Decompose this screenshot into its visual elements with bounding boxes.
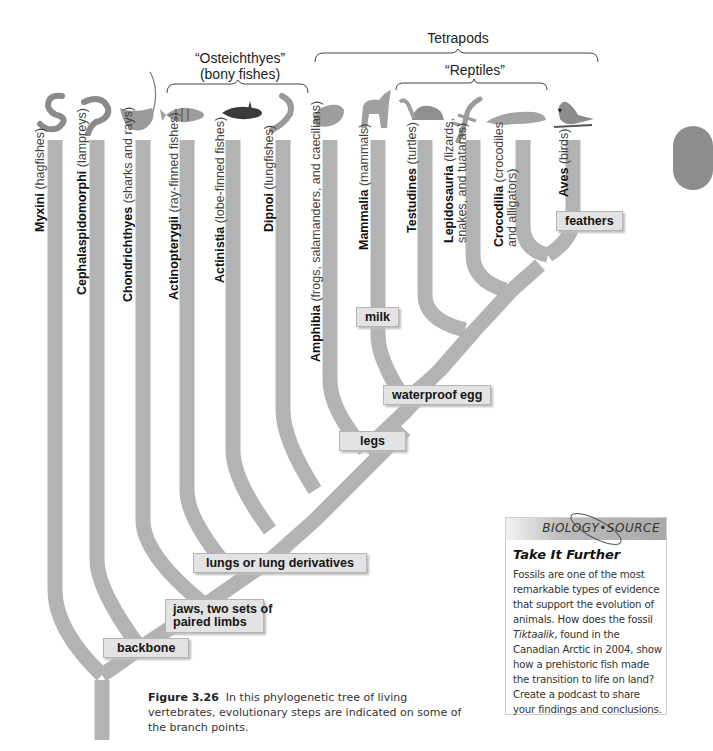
branch-crocodilia [523,140,548,255]
taxon-chondrichthyes: Chondrichthyes (sharks and rays) [121,107,135,302]
group-osteichthyes-sub: (bony fishes) [190,66,290,82]
taxon-myxini: Myxini (hagfishes) [33,128,47,232]
trait-backbone: backbone [103,638,189,658]
group-osteichthyes: “Osteichthyes” (bony fishes) [190,50,290,82]
taxon-cephalaspidomorphi: Cephalaspidomorphi (lampreys) [75,108,89,295]
bracket-tetrapods [315,49,598,62]
biology-source-label: BIOLOGY•SOURCE [542,521,660,535]
trait-jaws-paired-limbs: jaws, two sets of paired limbs [165,599,264,633]
taxon-actinopterygii: Actinopterygii (ray-finned fishes) [167,112,181,300]
trait-jaws-line2: paired limbs [173,616,255,629]
take-it-further-title: Take It Further [513,547,620,562]
taxon-amphibia: Amphibia (frogs, salamanders, and caecil… [309,101,323,362]
taxon-crocodilia: Crocodilia (crocodiles and alligators) [493,122,519,247]
taxon-mammalia: Mammalia (mammals) [357,124,371,250]
taxon-testudines: Testudines (turtles) [405,122,419,233]
figure-caption: Figure 3.26 In this phylogenetic tree of… [148,690,478,735]
trait-waterproof-egg: waterproof egg [383,385,491,405]
taxon-actinistia: Actinistia (lobe-finned fishes) [213,117,227,283]
trait-feathers: feathers [556,211,623,231]
page-edge-tab [673,126,713,190]
taxon-lepidosauria: Lepidosauria (lizards, snakes, and tuata… [443,118,469,243]
trait-legs: legs [339,431,406,451]
biology-source-box: BIOLOGY•SOURCE Take It Further Fossils a… [505,517,667,715]
caption-label: Figure 3.26 [148,691,219,704]
branch-mammalia [378,140,405,400]
trait-lungs: lungs or lung derivatives [193,553,367,573]
taxon-aves: Aves (birds) [557,129,571,197]
group-osteichthyes-title: “Osteichthyes” [190,50,290,66]
biology-source-header: BIOLOGY•SOURCE [506,518,666,540]
taxon-dipnoi: Dipnoi (lungfishes) [262,125,276,232]
bracket-reptiles [396,79,547,90]
group-tetrapods: Tetrapods [408,30,508,46]
trait-milk: milk [356,307,399,327]
take-it-further-body: Fossils are one of the most remarkable t… [513,567,663,717]
group-reptiles: “Reptiles” [425,62,525,78]
